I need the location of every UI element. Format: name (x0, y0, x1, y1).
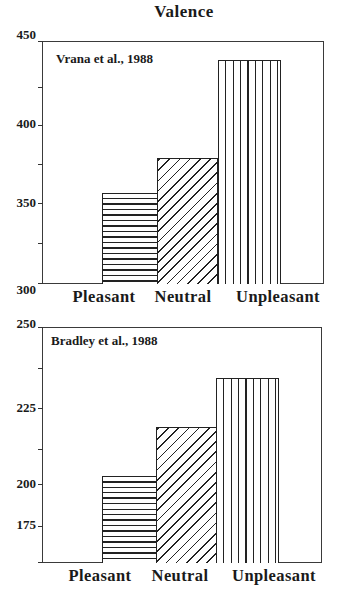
bottom-tick-base (38, 562, 43, 563)
figure-title: Valence (0, 2, 338, 22)
top-ytick-350: 350 (0, 196, 36, 210)
top-tick-450 (38, 41, 43, 42)
top-xlabel-neutral: Neutral (148, 287, 218, 307)
bottom-xlabel-unpleasant: Unpleasant (224, 566, 324, 586)
bottom-ytick-200: 200 (0, 477, 36, 491)
bottom-tick-175 (38, 526, 43, 527)
top-tick-400 (38, 125, 43, 126)
bottom-bar-neutral (156, 427, 217, 563)
top-tick-325 (38, 243, 43, 244)
top-ytick-400: 400 (0, 117, 36, 131)
bottom-bar-pleasant (102, 476, 157, 563)
bottom-tick-237 (38, 368, 43, 369)
bottom-ytick-250: 250 (0, 317, 36, 331)
top-bar-pleasant (102, 193, 158, 284)
top-tick-350 (38, 203, 43, 204)
top-study-label: Vrana et al., 1988 (56, 51, 153, 67)
bottom-xlabel-neutral: Neutral (145, 566, 215, 586)
top-bar-neutral (157, 158, 218, 284)
top-xlabel-pleasant: Pleasant (64, 287, 144, 307)
top-bar-unpleasant (218, 60, 281, 284)
top-tick-425 (38, 87, 43, 88)
bottom-tick-212 (38, 449, 43, 450)
bottom-tick-225 (38, 408, 43, 409)
bottom-bar-unpleasant (216, 378, 279, 563)
bottom-tick-200 (38, 484, 43, 485)
top-tick-375 (38, 164, 43, 165)
top-tick-300 (38, 283, 43, 284)
bottom-xlabel-pleasant: Pleasant (60, 566, 140, 586)
top-xlabel-unpleasant: Unpleasant (228, 287, 328, 307)
bottom-study-label: Bradley et al., 1988 (51, 333, 158, 349)
bottom-ytick-175: 175 (0, 518, 36, 532)
top-ytick-300: 300 (0, 283, 36, 297)
bottom-tick-250 (38, 327, 43, 328)
top-ytick-450: 450 (0, 28, 36, 42)
bottom-ytick-225: 225 (0, 401, 36, 415)
